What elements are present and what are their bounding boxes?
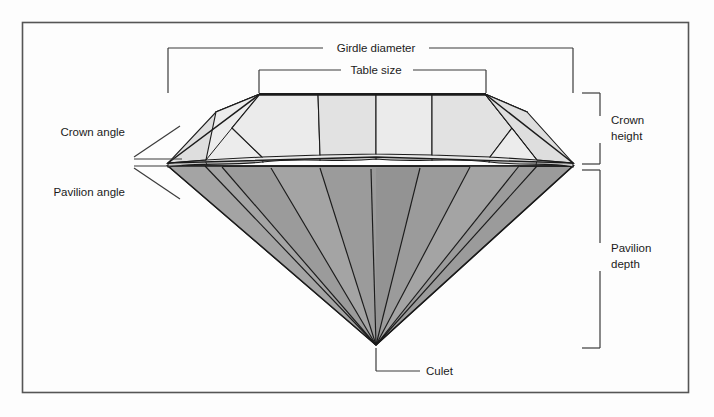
crown-facet-kite-right [376,94,432,155]
pavilion-depth-label-line1: Pavilion [611,242,651,254]
diagram-page: Girdle diameter Table size Crown height … [0,0,714,417]
diamond-proportions-diagram: Girdle diameter Table size Crown height … [0,0,714,417]
culet-measure [376,348,420,371]
pavilion-depth-measure [582,170,600,348]
pavilion-depth-label-line2: depth [611,258,640,270]
crown-group [168,94,573,163]
pavilion-group [168,166,573,345]
girdle-diameter-label: Girdle diameter [337,42,416,54]
crown-height-label-line2: height [611,130,643,142]
crown-height-label-line1: Crown [611,114,644,126]
crown-height-measure [582,93,600,164]
pavilion-angle-label: Pavilion angle [53,186,125,198]
table-size-label: Table size [350,64,401,76]
crown-angle-leader [134,126,180,157]
crown-angle-measure [134,126,182,159]
pavilion-angle-leader [134,168,180,199]
culet-label: Culet [426,365,454,377]
crown-facet-kite-left [318,94,376,155]
crown-angle-label: Crown angle [60,126,125,138]
